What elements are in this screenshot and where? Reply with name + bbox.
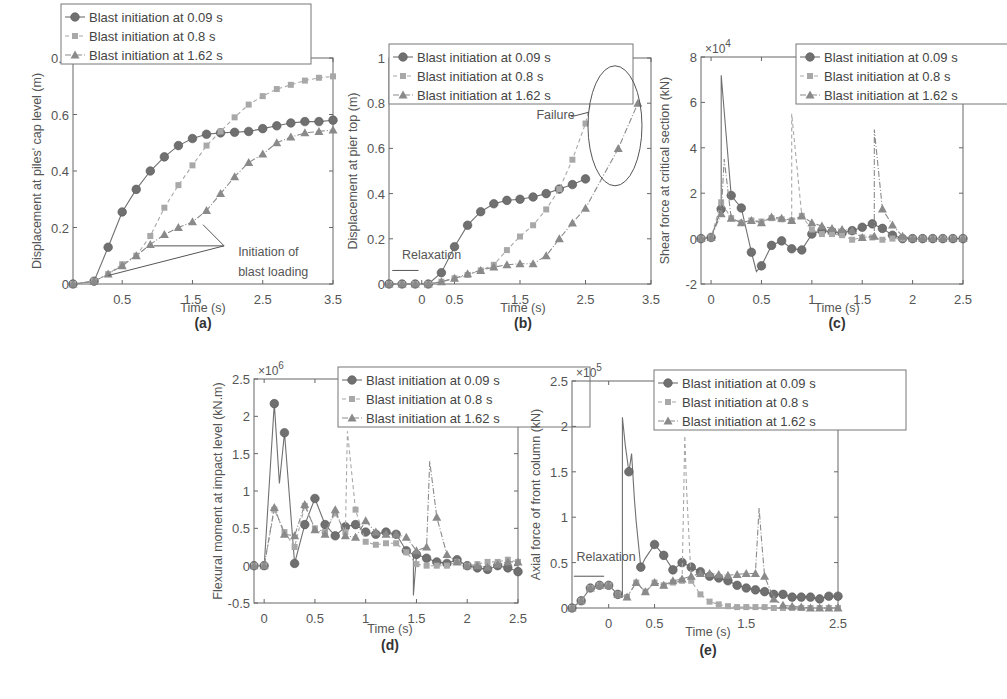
legend: Blast initiation at 0.09 sBlast initiati…: [389, 44, 633, 104]
data-marker: [301, 117, 310, 126]
data-marker: [330, 73, 336, 79]
data-marker: [581, 204, 590, 212]
x-tick-label: 0.5: [113, 292, 131, 307]
axis-exponent: ×105: [576, 362, 602, 380]
data-marker: [351, 520, 360, 529]
data-marker: [290, 559, 299, 568]
data-marker: [286, 133, 295, 141]
panel-label: (a): [194, 315, 211, 331]
data-marker: [463, 221, 472, 230]
y-tick-label: 2: [561, 419, 568, 434]
x-axis-label: Time (s): [685, 625, 730, 639]
annotation: blast loading: [238, 265, 308, 279]
y-tick-label: 1: [561, 510, 568, 525]
y-tick-label: 1.5: [232, 447, 250, 462]
chart-a: 0.51.52.53.500.20.40.60.8Time (s)Displac…: [30, 4, 342, 331]
data-marker: [771, 605, 777, 611]
panel-label: (d): [381, 637, 399, 653]
data-marker: [839, 232, 845, 238]
data-marker: [230, 128, 239, 137]
x-axis-label: Time (s): [500, 301, 545, 315]
axis-exponent: ×106: [258, 360, 284, 378]
data-marker: [868, 220, 877, 229]
data-marker: [797, 593, 806, 602]
legend-entry: Blast initiation at 0.8 s: [89, 29, 216, 44]
data-marker: [888, 220, 897, 228]
legend-entry: Blast initiation at 0.09 s: [824, 50, 958, 65]
data-marker: [568, 180, 577, 189]
data-marker: [751, 586, 760, 595]
data-marker: [650, 540, 659, 549]
data-marker: [444, 563, 450, 569]
data-marker: [361, 516, 370, 524]
data-marker: [889, 236, 895, 242]
data-marker: [743, 604, 749, 610]
legend-entry: Blast initiation at 0.09 s: [89, 10, 223, 25]
y-axis-label: Axial force of front column (kN): [529, 409, 543, 581]
data-marker: [244, 158, 253, 166]
x-axis-label: Time (s): [814, 301, 859, 315]
data-marker: [432, 513, 441, 521]
data-marker: [315, 117, 324, 126]
data-marker: [202, 130, 211, 139]
data-marker: [146, 240, 155, 248]
data-marker: [878, 205, 887, 213]
data-marker: [174, 141, 183, 150]
x-tick-label: 0: [605, 616, 612, 631]
data-marker: [244, 127, 253, 136]
data-marker: [463, 269, 472, 277]
data-marker: [516, 195, 525, 204]
data-marker: [625, 468, 634, 477]
data-marker: [272, 122, 281, 131]
y-tick-label: 8: [690, 50, 697, 65]
y-tick-label: 0.5: [550, 556, 568, 571]
y-tick-label: 0.5: [232, 521, 250, 536]
data-marker: [188, 134, 197, 143]
annotation: Relaxation: [577, 550, 636, 564]
data-marker: [174, 223, 183, 231]
data-marker: [752, 604, 758, 610]
panel-label: (c): [828, 315, 845, 331]
data-marker: [556, 186, 562, 192]
data-marker: [316, 75, 322, 81]
y-tick-label: 1: [378, 51, 385, 66]
data-marker: [530, 222, 536, 228]
data-marker: [363, 539, 369, 545]
data-marker: [787, 245, 796, 254]
annotation: Failure: [536, 108, 574, 122]
y-tick-label: 2.5: [550, 374, 568, 389]
data-marker: [815, 595, 824, 604]
data-marker: [287, 119, 296, 128]
data-marker: [829, 231, 835, 237]
data-marker: [188, 217, 197, 225]
data-marker: [373, 542, 379, 548]
data-marker: [760, 587, 769, 596]
data-marker: [300, 500, 309, 508]
y-tick-label: 0: [378, 277, 385, 292]
data-marker: [204, 143, 210, 149]
legend-entry: Blast initiation at 0.8 s: [682, 395, 809, 410]
x-tick-label: 3.5: [324, 292, 342, 307]
x-axis-label: Time (s): [180, 301, 225, 315]
data-marker: [788, 593, 797, 602]
x-tick-label: 0.5: [752, 292, 770, 307]
data-marker: [490, 199, 499, 208]
legend-entry: Blast initiation at 1.62 s: [682, 414, 816, 429]
data-marker: [737, 204, 746, 213]
x-tick-label: 2.5: [509, 611, 527, 626]
legend: Blast initiation at 0.09 sBlast initiati…: [796, 44, 1007, 104]
data-marker: [160, 230, 169, 238]
x-tick-label: 1.5: [737, 616, 755, 631]
annotation: Relaxation: [402, 248, 461, 262]
data-marker: [797, 246, 806, 255]
x-tick-label: 0.5: [445, 292, 463, 307]
data-marker: [175, 182, 181, 188]
x-tick-label: 3.5: [642, 292, 660, 307]
series-1: [250, 399, 523, 595]
data-marker: [716, 601, 722, 607]
data-marker: [807, 218, 816, 226]
data-marker: [687, 572, 696, 580]
y-tick-label: 0.4: [367, 187, 385, 202]
data-marker: [757, 262, 766, 271]
legend: Blast initiation at 0.09 sBlast initiati…: [654, 370, 906, 430]
